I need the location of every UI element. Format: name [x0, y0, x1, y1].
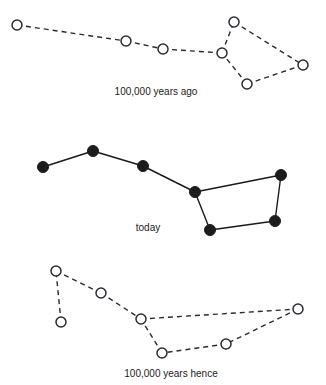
star-marker: [229, 17, 239, 27]
star-marker: [293, 304, 303, 314]
star-marker: [276, 170, 287, 181]
constellation-line: [93, 151, 143, 166]
constellation-line: [162, 344, 226, 353]
panel-past-stars: [12, 17, 308, 89]
star-marker: [96, 288, 106, 298]
constellation-line: [141, 319, 162, 353]
star-marker: [136, 314, 146, 324]
panel-today-stars: [38, 146, 287, 236]
panel-label-past: 100,000 years ago: [115, 86, 198, 97]
constellation-line: [195, 192, 210, 230]
panel-label-today: today: [136, 222, 160, 233]
constellation-line: [43, 151, 93, 167]
star-marker: [38, 162, 49, 173]
star-marker: [190, 187, 201, 198]
constellation-line: [56, 271, 101, 293]
constellation-line: [247, 65, 303, 84]
star-marker: [88, 146, 99, 157]
panel-today-edges: [43, 151, 281, 230]
constellation-line: [222, 53, 247, 84]
star-marker: [12, 20, 22, 30]
star-marker: [217, 48, 227, 58]
constellation-line: [275, 175, 281, 221]
star-chart-figure: 100,000 years agotoday100,000 years henc…: [0, 0, 326, 385]
constellation-line: [195, 175, 281, 192]
constellation-line: [234, 22, 303, 65]
constellation-line: [143, 166, 195, 192]
star-chart-svg: 100,000 years agotoday100,000 years henc…: [0, 0, 326, 385]
star-marker: [56, 317, 66, 327]
star-marker: [298, 60, 308, 70]
constellation-line: [226, 309, 298, 344]
constellation-line: [101, 293, 141, 319]
star-marker: [157, 348, 167, 358]
panel-today: today: [38, 146, 287, 236]
star-marker: [242, 79, 252, 89]
constellation-line: [141, 309, 298, 319]
star-marker: [205, 225, 216, 236]
star-marker: [138, 161, 149, 172]
panel-label-future: 100,000 years hence: [124, 368, 218, 379]
star-marker: [121, 36, 131, 46]
constellation-line: [210, 221, 275, 230]
panel-future-stars: [51, 266, 303, 358]
star-marker: [270, 216, 281, 227]
constellation-line: [56, 271, 61, 322]
constellation-line: [163, 49, 222, 53]
panel-past: 100,000 years ago: [12, 17, 308, 97]
star-marker: [51, 266, 61, 276]
panel-future-edges: [56, 271, 298, 353]
constellation-line: [17, 25, 126, 41]
star-marker: [158, 44, 168, 54]
star-marker: [221, 339, 231, 349]
panel-future: 100,000 years hence: [51, 266, 303, 379]
